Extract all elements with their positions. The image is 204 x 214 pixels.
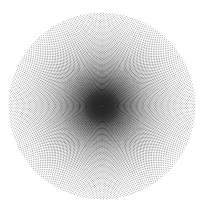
figure-container: Concentric Radial Dot Pattern A circular…	[0, 0, 204, 214]
concentric-dot-pattern-canvas	[0, 0, 204, 214]
